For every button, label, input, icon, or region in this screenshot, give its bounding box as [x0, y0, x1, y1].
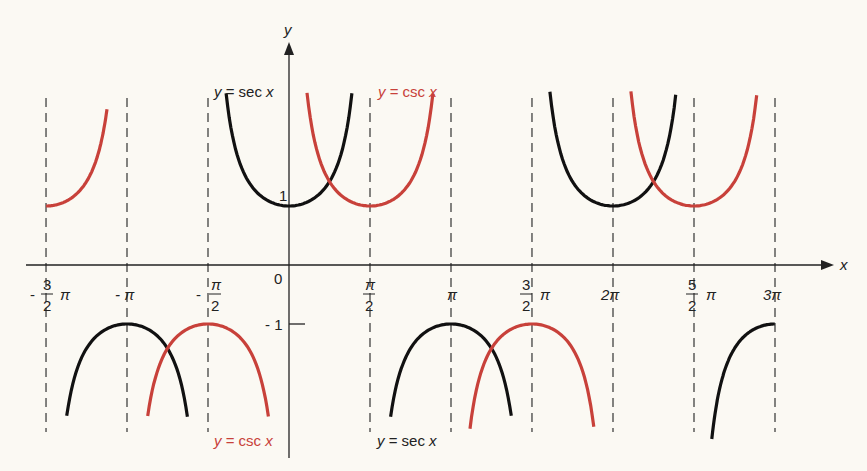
- svg-text:π: π: [365, 276, 376, 293]
- svg-text:-: -: [30, 286, 35, 303]
- x-tick-label-neg-3pi-2: - 3 2 π: [30, 276, 71, 314]
- sec-csc-chart: x y 0 1 - 1 - 3 2 π - π - π 2 π 2 π 3 2 …: [0, 0, 867, 471]
- svg-text:π: π: [211, 276, 222, 293]
- x-tick-label-5pi-2: 5 2 π: [686, 276, 717, 314]
- sec-label-bottom: y = sec x: [376, 432, 437, 449]
- csc-label-bottom: y = csc x: [213, 432, 273, 449]
- svg-text:2: 2: [211, 297, 219, 314]
- y-axis-label: y: [283, 21, 293, 38]
- x-tick-label-3pi-2: 3 2 π: [520, 276, 551, 314]
- y-tick-label-neg-1: - 1: [265, 316, 283, 333]
- x-tick-label-neg-pi: - π: [115, 286, 135, 303]
- x-axis-label: x: [839, 256, 848, 273]
- x-tick-label-neg-pi-2: - π 2: [196, 276, 222, 314]
- x-tick-label-3pi: 3π: [763, 286, 782, 303]
- svg-text:2: 2: [43, 297, 51, 314]
- svg-text:π: π: [60, 286, 71, 303]
- svg-text:π: π: [540, 286, 551, 303]
- svg-text:2: 2: [522, 297, 530, 314]
- origin-label: 0: [274, 270, 282, 287]
- svg-text:2: 2: [365, 297, 373, 314]
- x-axis-arrow-icon: [821, 260, 834, 270]
- x-tick-label-pi: π: [447, 286, 458, 303]
- y-axis-arrow-icon: [284, 42, 294, 55]
- svg-text:5: 5: [688, 276, 696, 293]
- sec-curve-branch: [712, 324, 775, 439]
- svg-text:2: 2: [688, 297, 696, 314]
- csc-curve-branch: [46, 109, 107, 206]
- csc-label-top: y = csc x: [377, 83, 437, 100]
- svg-text:3: 3: [43, 276, 51, 293]
- svg-text:π: π: [706, 286, 717, 303]
- y-tick-label-1: 1: [279, 187, 287, 204]
- svg-text:-: -: [196, 286, 201, 303]
- svg-text:3: 3: [522, 276, 530, 293]
- x-tick-label-2pi: 2π: [600, 286, 620, 303]
- sec-label-top: y = sec x: [213, 83, 274, 100]
